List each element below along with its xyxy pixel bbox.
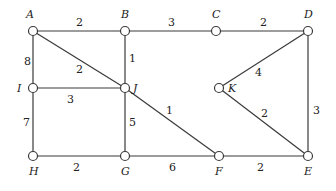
node-label-h: H <box>28 165 39 178</box>
node-d <box>304 27 313 36</box>
edge-weight-d-k: 4 <box>255 66 262 79</box>
node-label-k: K <box>227 82 237 95</box>
edge-weight-j-g: 5 <box>129 116 136 129</box>
node-label-b: B <box>120 8 129 21</box>
node-label-c: C <box>212 8 221 21</box>
edges-layer <box>33 31 308 156</box>
node-a <box>29 27 38 36</box>
edge-k-e <box>219 88 308 156</box>
edge-a-j <box>33 31 125 88</box>
node-label-g: G <box>121 165 130 178</box>
node-h <box>29 152 38 161</box>
node-c <box>212 27 221 36</box>
node-label-j: J <box>131 82 138 95</box>
node-k <box>215 84 224 93</box>
edge-d-k <box>219 31 308 88</box>
edge-weight-d-e: 3 <box>313 104 320 117</box>
edge-weight-b-j: 1 <box>129 52 136 65</box>
edge-weight-a-i: 8 <box>24 55 31 68</box>
weighted-graph-diagram: 2328213431572262 ABCDIJKHGFE <box>0 0 336 191</box>
edge-weight-i-h: 7 <box>23 116 30 129</box>
edge-j-f <box>125 88 219 156</box>
node-label-i: I <box>16 82 22 95</box>
edge-weight-h-g: 2 <box>73 161 80 174</box>
edge-weight-j-f: 1 <box>166 104 173 117</box>
node-b <box>121 27 130 36</box>
edge-weight-k-e: 2 <box>261 107 268 120</box>
edge-weight-a-b: 2 <box>76 16 83 29</box>
node-e <box>304 152 313 161</box>
node-g <box>121 152 130 161</box>
edge-weight-b-c: 3 <box>168 16 175 29</box>
node-i <box>29 84 38 93</box>
edge-weight-i-j: 3 <box>67 93 74 106</box>
edge-weight-g-f: 6 <box>169 161 176 174</box>
node-label-a: A <box>25 8 34 21</box>
edge-weight-a-j: 2 <box>76 63 83 76</box>
node-label-e: E <box>303 165 312 178</box>
node-f <box>215 152 224 161</box>
node-labels-layer: ABCDIJKHGFE <box>16 8 313 178</box>
node-label-d: D <box>303 8 313 21</box>
edge-weight-f-e: 2 <box>257 161 264 174</box>
node-label-f: F <box>214 165 223 178</box>
edge-weight-c-d: 2 <box>260 16 267 29</box>
edge-weights-layer: 2328213431572262 <box>23 16 320 174</box>
node-j <box>121 84 130 93</box>
